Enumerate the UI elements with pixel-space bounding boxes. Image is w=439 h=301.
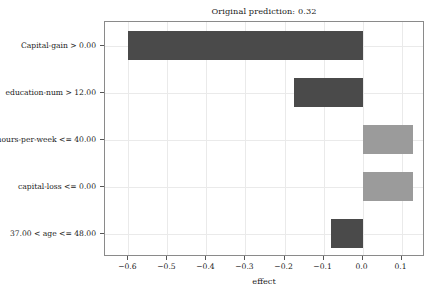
x-axis-tick-label: −0.1 <box>313 262 331 271</box>
x-axis-tick-label: 0.0 <box>356 262 368 271</box>
gridline-horizontal <box>105 93 423 94</box>
x-axis-tick-label: −0.3 <box>235 262 253 271</box>
y-axis-tick <box>100 186 104 187</box>
y-axis-tick <box>100 233 104 234</box>
gridline-horizontal <box>105 234 423 235</box>
bar-negative[interactable] <box>331 219 362 248</box>
x-axis-tick <box>323 256 324 260</box>
x-axis-tick <box>284 256 285 260</box>
y-axis-tick-label: capital-loss <= 0.00 <box>18 181 96 190</box>
x-axis-tick <box>127 256 128 260</box>
x-axis-tick <box>244 256 245 260</box>
x-axis-label: effect <box>104 276 424 286</box>
chart-figure: Original prediction: 0.32 Capital-gain >… <box>0 0 439 301</box>
y-axis-tick-label: education-num > 12.00 <box>6 87 96 96</box>
x-axis-tick <box>205 256 206 260</box>
bar-negative[interactable] <box>294 78 362 107</box>
y-axis-tick-label: hours-per-week <= 40.00 <box>0 134 96 143</box>
y-axis-tick-label: 37.00 < age <= 48.00 <box>10 228 96 237</box>
y-axis-tick <box>100 139 104 140</box>
y-axis-tick <box>100 92 104 93</box>
bar-negative[interactable] <box>128 31 362 60</box>
x-axis-tick-label: −0.4 <box>196 262 214 271</box>
page-title: Original prediction: 0.32 <box>104 6 424 16</box>
bar-positive[interactable] <box>363 125 414 154</box>
bar-positive[interactable] <box>363 172 414 201</box>
y-axis-tick <box>100 45 104 46</box>
x-axis-tick-label: −0.2 <box>274 262 292 271</box>
x-axis-tick-label: 0.1 <box>395 262 407 271</box>
x-axis-tick <box>401 256 402 260</box>
x-axis-tick-label: −0.6 <box>118 262 136 271</box>
x-axis-tick <box>362 256 363 260</box>
x-axis-tick-label: −0.5 <box>157 262 175 271</box>
x-axis-tick <box>166 256 167 260</box>
plot-area <box>104 21 424 256</box>
y-axis-tick-label: Capital-gain > 0.00 <box>21 40 96 49</box>
